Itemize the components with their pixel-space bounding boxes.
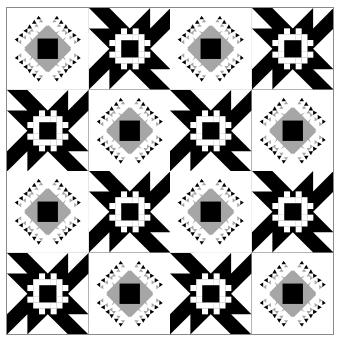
gray-star-pattern-icon bbox=[252, 253, 334, 335]
black-star-block bbox=[252, 8, 334, 90]
gray-star-pattern-icon bbox=[89, 253, 171, 335]
black-star-block bbox=[89, 171, 171, 253]
black-star-block bbox=[170, 90, 252, 172]
gray-star-pattern-icon bbox=[170, 171, 252, 253]
black-star-pattern-icon bbox=[170, 253, 252, 335]
black-star-block bbox=[170, 253, 252, 335]
gray-star-block bbox=[89, 253, 171, 335]
gray-star-block bbox=[252, 90, 334, 172]
gray-star-pattern-icon bbox=[89, 90, 171, 172]
gray-star-block bbox=[89, 90, 171, 172]
black-star-pattern-icon bbox=[7, 253, 89, 335]
gray-star-pattern-icon bbox=[252, 90, 334, 172]
black-star-pattern-icon bbox=[89, 171, 171, 253]
gray-star-block bbox=[7, 171, 89, 253]
quilt-grid bbox=[7, 8, 333, 334]
black-star-pattern-icon bbox=[252, 8, 334, 90]
black-star-block bbox=[252, 171, 334, 253]
black-star-pattern-icon bbox=[89, 8, 171, 90]
gray-star-block bbox=[170, 8, 252, 90]
black-star-block bbox=[89, 8, 171, 90]
gray-star-pattern-icon bbox=[170, 8, 252, 90]
black-star-block bbox=[7, 90, 89, 172]
gray-star-block bbox=[170, 171, 252, 253]
black-star-pattern-icon bbox=[170, 90, 252, 172]
gray-star-block bbox=[252, 253, 334, 335]
gray-star-pattern-icon bbox=[7, 8, 89, 90]
black-star-block bbox=[7, 253, 89, 335]
black-star-pattern-icon bbox=[252, 171, 334, 253]
gray-star-pattern-icon bbox=[7, 171, 89, 253]
black-star-pattern-icon bbox=[7, 90, 89, 172]
gray-star-block bbox=[7, 8, 89, 90]
